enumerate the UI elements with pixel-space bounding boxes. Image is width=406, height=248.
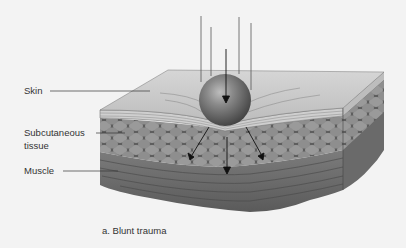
blunt-trauma-diagram [0, 0, 406, 248]
label-subcutaneous: Subcutaneous [24, 127, 85, 139]
label-muscle: Muscle [24, 165, 54, 177]
figure-caption: a. Blunt trauma [102, 225, 166, 236]
label-tissue: tissue [24, 140, 49, 152]
label-skin: Skin [24, 85, 42, 97]
